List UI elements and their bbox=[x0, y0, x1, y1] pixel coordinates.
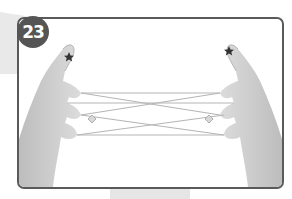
strings bbox=[67, 93, 234, 135]
string-figure-illustration bbox=[19, 19, 282, 187]
right-hand bbox=[220, 45, 282, 187]
illustration-frame bbox=[17, 17, 284, 189]
step-number-badge: 23 bbox=[17, 16, 49, 48]
left-hand bbox=[19, 45, 81, 187]
